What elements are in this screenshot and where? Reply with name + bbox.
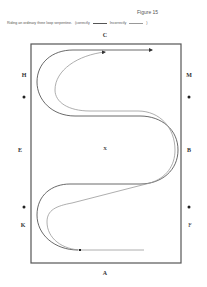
left-upper-marker-dot	[23, 96, 26, 99]
arena-border	[31, 44, 181, 263]
arena-diagram	[0, 0, 207, 287]
letter-a: A	[103, 270, 107, 276]
letter-e: E	[18, 147, 22, 153]
letter-h: H	[22, 72, 27, 78]
letter-x: X	[103, 146, 107, 151]
letter-m: M	[186, 72, 192, 78]
right-upper-marker-dot	[188, 96, 191, 99]
letter-f: F	[188, 222, 191, 228]
correct-serpentine-path	[37, 50, 178, 250]
letter-b: B	[187, 147, 191, 153]
letter-k: K	[21, 222, 26, 228]
letter-c: C	[103, 32, 107, 38]
right-lower-marker-dot	[188, 206, 191, 209]
incorrect-serpentine-path	[47, 52, 175, 250]
left-lower-marker-dot	[23, 206, 26, 209]
start-point-marker	[79, 249, 81, 251]
